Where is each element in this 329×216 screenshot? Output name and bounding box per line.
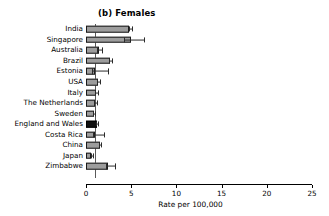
category-label: Brazil bbox=[63, 57, 83, 64]
category-label: Estonia bbox=[57, 68, 83, 75]
error-bar-cap bbox=[112, 58, 113, 63]
error-bar-cap bbox=[97, 79, 98, 84]
error-bar-cap bbox=[93, 111, 94, 116]
category-label: Singapore bbox=[47, 36, 83, 43]
category-label: Zimbabwe bbox=[45, 163, 83, 170]
bar-row: Italy bbox=[0, 87, 329, 98]
bar-row: Estonia bbox=[0, 66, 329, 77]
bar-row: China bbox=[0, 140, 329, 151]
x-tick bbox=[176, 185, 177, 188]
category-label: Italy bbox=[67, 89, 83, 96]
x-tick-label: 0 bbox=[84, 189, 89, 198]
bar-row: USA bbox=[0, 77, 329, 88]
bar-row: The Netherlands bbox=[0, 98, 329, 109]
error-bar-cap bbox=[115, 164, 116, 169]
error-bar-cap bbox=[93, 132, 94, 137]
x-tick bbox=[131, 185, 132, 188]
category-label: Costa Rica bbox=[45, 131, 83, 138]
error-bar-cap bbox=[124, 37, 125, 42]
bar bbox=[86, 163, 108, 170]
error-bar-cap bbox=[93, 153, 94, 158]
chart-container: (b) Females IndiaSingaporeAustraliaBrazi… bbox=[0, 0, 329, 216]
bar bbox=[86, 142, 100, 149]
error-bar-cap bbox=[108, 69, 109, 74]
error-bar-cap bbox=[95, 90, 96, 95]
x-axis-title-text: Rate per 100,000 bbox=[158, 200, 222, 209]
error-bar-cap bbox=[104, 132, 105, 137]
x-axis-title: Rate per 100,000 bbox=[0, 200, 329, 209]
x-tick bbox=[222, 185, 223, 188]
error-bar-cap bbox=[98, 122, 99, 127]
x-axis-line bbox=[86, 184, 312, 185]
bar-row: Costa Rica bbox=[0, 130, 329, 141]
x-tick bbox=[267, 185, 268, 188]
bar bbox=[86, 58, 110, 65]
bar bbox=[86, 26, 129, 33]
bar-row: Brazil bbox=[0, 56, 329, 67]
x-tick-label: 10 bbox=[172, 189, 181, 198]
error-bar-cap bbox=[129, 27, 130, 32]
error-bar-cap bbox=[98, 90, 99, 95]
x-tick-label: 25 bbox=[307, 189, 316, 198]
x-tick-label: 15 bbox=[217, 189, 226, 198]
error-bar-cap bbox=[92, 69, 93, 74]
error-bar-cap bbox=[94, 101, 95, 106]
error-bar-cap bbox=[100, 79, 101, 84]
error-bar bbox=[93, 134, 104, 135]
error-bar bbox=[92, 71, 107, 72]
category-label: Japan bbox=[63, 152, 83, 159]
error-bar-cap bbox=[101, 143, 102, 148]
error-bar-cap bbox=[95, 111, 96, 116]
category-label: The Netherlands bbox=[24, 99, 83, 106]
x-tick-label: 20 bbox=[262, 189, 271, 198]
bar-row: Singapore bbox=[0, 35, 329, 46]
category-label: USA bbox=[68, 78, 83, 85]
x-tick bbox=[312, 185, 313, 188]
error-bar-cap bbox=[102, 48, 103, 53]
bar-row: Australia bbox=[0, 45, 329, 56]
category-label: Australia bbox=[51, 47, 83, 54]
error-bar bbox=[124, 39, 144, 40]
error-bar-cap bbox=[144, 37, 145, 42]
category-label: India bbox=[65, 26, 83, 33]
error-bar-cap bbox=[97, 48, 98, 53]
error-bar-cap bbox=[96, 122, 97, 127]
error-bar-cap bbox=[109, 58, 110, 63]
category-label: Sweden bbox=[55, 110, 83, 117]
bar-row: Zimbabwe bbox=[0, 161, 329, 172]
bar-row: Japan bbox=[0, 151, 329, 162]
bar-row: England and Wales bbox=[0, 119, 329, 130]
category-label: England and Wales bbox=[15, 121, 83, 128]
bar-row: India bbox=[0, 24, 329, 35]
x-tick bbox=[86, 185, 87, 188]
error-bar-cap bbox=[99, 143, 100, 148]
category-label: China bbox=[62, 142, 83, 149]
error-bar-cap bbox=[97, 101, 98, 106]
x-tick-label: 5 bbox=[129, 189, 134, 198]
bar-row: Sweden bbox=[0, 108, 329, 119]
error-bar-cap bbox=[132, 27, 133, 32]
error-bar bbox=[106, 166, 115, 167]
error-bar-cap bbox=[91, 153, 92, 158]
error-bar-cap bbox=[106, 164, 107, 169]
